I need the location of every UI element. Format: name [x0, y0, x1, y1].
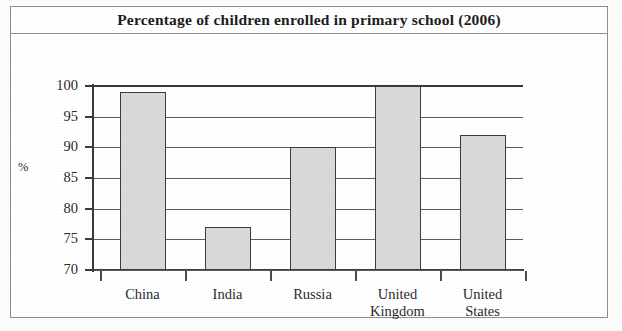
y-tick-70: [85, 269, 94, 271]
y-tick-90: [85, 146, 94, 148]
y-tick-95: [85, 116, 94, 118]
y-tick-label-80: 80: [44, 200, 78, 217]
x-tick-3: [440, 271, 442, 281]
y-tick-75: [85, 238, 94, 240]
x-tick-label-russia: Russia: [270, 286, 355, 303]
y-tick-label-100: 100: [44, 77, 78, 94]
x-tick-label-line: India: [185, 286, 270, 303]
chart-figure: Percentage of children enrolled in prima…: [0, 0, 622, 331]
plot-area: % 707580859095100 ChinaIndiaRussiaUnited…: [0, 0, 622, 331]
bar-united-kingdom: [375, 86, 421, 270]
bar-india: [205, 227, 251, 270]
bar-china: [120, 92, 166, 270]
x-tick-label-united-kingdom: UnitedKingdom: [355, 286, 440, 320]
bar-russia: [290, 147, 336, 270]
y-tick-label-85: 85: [44, 169, 78, 186]
y-tick-100: [85, 85, 94, 87]
x-tick-label-india: India: [185, 286, 270, 303]
y-tick-label-75: 75: [44, 230, 78, 247]
gridline-70: [92, 270, 523, 271]
x-tick-2: [355, 271, 357, 281]
y-tick-label-95: 95: [44, 108, 78, 125]
x-tick-label-line: Kingdom: [355, 303, 440, 320]
x-tick-label-line: Russia: [270, 286, 355, 303]
y-tick-80: [85, 208, 94, 210]
y-tick-85: [85, 177, 94, 179]
bar-united-states: [460, 135, 506, 270]
y-tick-label-90: 90: [44, 138, 78, 155]
x-tick-label-line: United: [440, 286, 525, 303]
x-tick-origin: [100, 271, 102, 281]
x-tick-label-line: United: [355, 286, 440, 303]
x-tick-label-line: States: [440, 303, 525, 320]
x-tick-1: [270, 271, 272, 281]
x-tick-0: [185, 271, 187, 281]
y-tick-label-70: 70: [44, 261, 78, 278]
gridline-100: [92, 85, 523, 87]
x-tick-4: [525, 271, 527, 281]
x-tick-label-line: China: [100, 286, 185, 303]
x-tick-label-united-states: UnitedStates: [440, 286, 525, 320]
x-tick-label-china: China: [100, 286, 185, 303]
y-axis-label: %: [18, 160, 28, 175]
